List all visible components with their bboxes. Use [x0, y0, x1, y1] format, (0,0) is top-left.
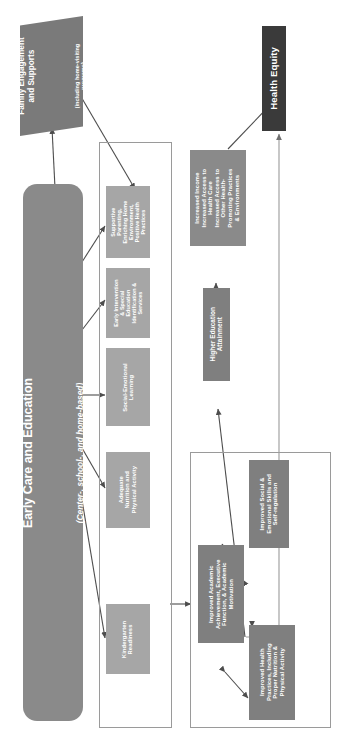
family-engagement-sublabel: (including home-visiting programs) [73, 37, 86, 114]
health-equity-label: Health Equity [269, 47, 280, 110]
outcome-label: Improved Academic Achievement, Executive… [208, 559, 234, 629]
node-mechanism-social-emotional-learning[interactable]: Social-Emotional Learning [106, 348, 150, 426]
node-outcome-improved-academic[interactable]: Improved Academic Achievement, Executive… [198, 545, 244, 643]
outcome-label: Improved Social & Emotional Skills and S… [259, 474, 279, 534]
early-care-education-sublabel: (Center-, school-, and home-based) [75, 377, 86, 527]
node-mechanism-nutrition-physical-activity[interactable]: Adequate Nutrition and Physical Activity [106, 452, 150, 528]
node-family-engagement[interactable]: Family Engagement and Supports (includin… [20, 16, 83, 136]
diagram-canvas: Family Engagement and Supports (includin… [0, 0, 337, 737]
mechanism-label: Kindergarten Readiness [122, 620, 135, 657]
node-early-care-education[interactable]: Early Care and Education (Center-, schoo… [23, 184, 83, 721]
link-ece-to-family [52, 128, 55, 188]
node-increased-income-access[interactable]: Increased Income Increased Access to Hea… [190, 150, 246, 246]
node-mechanism-early-intervention[interactable]: Early Intervention & Special Education I… [106, 268, 150, 338]
outcome-label: Improved Health Practices, Including Pro… [259, 644, 285, 702]
higher-education-attainment-label: Higher Education Attainment [209, 307, 223, 362]
increased-income-access-label: Increased Income Increased Access to Hea… [195, 168, 241, 227]
node-higher-education-attainment[interactable]: Higher Education Attainment [203, 288, 230, 381]
mechanism-label: Social-Emotional Learning [122, 363, 135, 412]
node-health-equity[interactable]: Health Equity [262, 26, 286, 131]
node-mechanism-supportive-parenting[interactable]: Supportive Parenting, Enriching Home Env… [106, 186, 150, 258]
family-engagement-label: Family Engagement and Supports [16, 37, 36, 114]
early-care-education-label: Early Care and Education [21, 377, 37, 527]
mechanism-label: Supportive Parenting, Enriching Home Env… [110, 201, 146, 244]
mechanism-label: Early Intervention & Special Education I… [113, 279, 143, 326]
node-outcome-improved-health-practices[interactable]: Improved Health Practices, Including Pro… [249, 625, 295, 720]
node-mechanism-kindergarten-readiness[interactable]: Kindergarten Readiness [106, 604, 150, 674]
mechanism-label: Adequate Nutrition and Physical Activity [118, 466, 137, 514]
node-outcome-improved-social-emotional[interactable]: Improved Social & Emotional Skills and S… [249, 460, 289, 548]
